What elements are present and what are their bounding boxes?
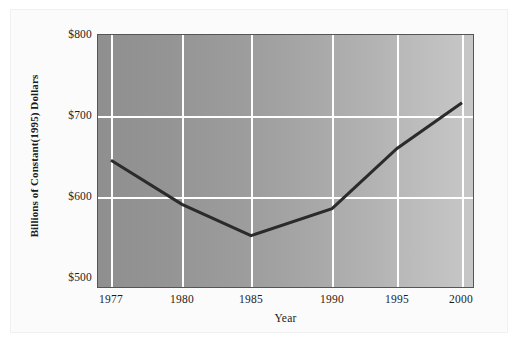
x-tick-label-1980: 1980 [170, 293, 194, 305]
chart-figure: Billions of Constant(1995) Dollars $800 … [0, 0, 518, 342]
x-tick-label-1977: 1977 [99, 293, 123, 305]
y-tick-label-500: $500 [32, 271, 92, 283]
x-tick-label-1990: 1990 [320, 293, 344, 305]
y-tick-label-700: $700 [32, 109, 92, 121]
plot-area [97, 34, 474, 288]
data-series-line [98, 35, 474, 288]
x-tick-label-1995: 1995 [385, 293, 409, 305]
x-tick-label-1985: 1985 [239, 293, 263, 305]
y-tick-label-600: $600 [32, 190, 92, 202]
y-tick-label-800: $800 [32, 28, 92, 40]
x-axis-title: Year [97, 312, 474, 324]
x-tick-label-2000: 2000 [449, 293, 473, 305]
x-axis-tick-labels: 1977 1980 1985 1990 1995 2000 [97, 293, 474, 311]
y-axis-tick-labels: $800 $700 $600 $500 [28, 34, 92, 288]
